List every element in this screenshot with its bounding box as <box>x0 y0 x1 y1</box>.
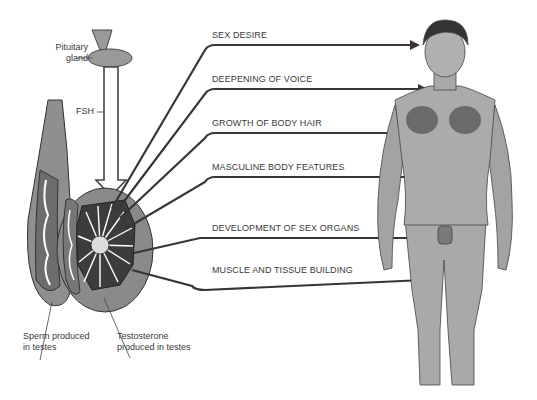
testis <box>57 188 153 312</box>
effect-label-deepening-voice: DEEPENING OF VOICE <box>212 74 312 84</box>
pituitary-label-line1: Pituitary <box>48 42 88 53</box>
pituitary-label-line2: gland <box>48 53 88 64</box>
fsh-arrow <box>96 67 126 196</box>
sperm-label-line1: Sperm produced <box>23 331 90 342</box>
pituitary-label: Pituitary gland <box>48 42 88 64</box>
effect-label-masculine-features: MASCULINE BODY FEATURES <box>212 162 345 172</box>
fsh-label: FSH <box>76 106 94 117</box>
effect-label-sex-organs: DEVELOPMENT OF SEX ORGANS <box>212 223 359 233</box>
effect-label-muscle-tissue: MUSCLE AND TISSUE BUILDING <box>212 265 353 275</box>
testosterone-label: Testosterone produced in testes <box>117 331 191 353</box>
sperm-label-line2: in testes <box>23 342 90 353</box>
testosterone-label-line2: produced in testes <box>117 342 191 353</box>
effect-label-sex-desire: SEX DESIRE <box>212 30 267 40</box>
male-figure <box>378 20 513 385</box>
sperm-label: Sperm produced in testes <box>23 331 90 353</box>
effect-label-body-hair: GROWTH OF BODY HAIR <box>212 118 322 128</box>
testosterone-label-line1: Testosterone <box>117 331 191 342</box>
